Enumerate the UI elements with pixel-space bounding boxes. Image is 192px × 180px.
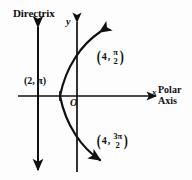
vertex-point-label: (2, π) xyxy=(24,76,46,86)
open-paren: ( xyxy=(97,48,101,65)
origin-label: O xyxy=(70,98,77,108)
close-paren: ) xyxy=(120,48,124,65)
upper-point-label: ( 4 , π 2 ) xyxy=(96,48,125,65)
x-axis-label: x xyxy=(152,88,157,97)
polar-axis-label-line1: Polar xyxy=(158,84,181,95)
upper-point-angle-fraction: π 2 xyxy=(112,48,119,64)
fraction-denominator: 2 xyxy=(116,141,120,149)
open-paren: ( xyxy=(97,132,101,149)
lower-point-label: ( 4 , 3π 2 ) xyxy=(96,132,129,149)
fraction-denominator: 2 xyxy=(113,57,117,65)
lower-point-angle-fraction: 3π 2 xyxy=(112,132,123,148)
polar-axis-label: Polar Axis xyxy=(158,84,181,106)
directrix-label: Directrix xyxy=(13,8,55,19)
y-axis-label: y xyxy=(66,17,70,27)
close-paren: ) xyxy=(124,132,128,149)
polar-axis-label-line2: Axis xyxy=(158,95,181,106)
polar-conic-figure: Directrix y x Polar Axis O (2, π) ( 4 , … xyxy=(0,0,192,180)
